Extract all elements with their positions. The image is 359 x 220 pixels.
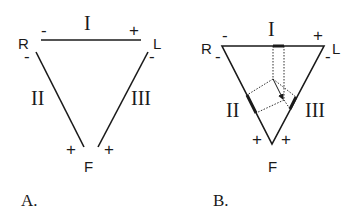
lead-2-label: II xyxy=(31,87,44,109)
triangle-outline xyxy=(222,46,324,144)
lead-3-negative-sign: - xyxy=(149,47,155,66)
lead-3-label: III xyxy=(305,99,325,121)
lead-2-negative-sign: - xyxy=(24,47,30,66)
lead-3-positive-sign: + xyxy=(281,130,291,149)
lead-1-label: I xyxy=(268,18,275,40)
diagram-b-caption: B. xyxy=(213,191,229,210)
lead-2-label: II xyxy=(226,99,239,121)
vertex-f-label: F xyxy=(84,158,93,175)
vertex-l-label: L xyxy=(332,40,340,57)
lead-3-projection-segment xyxy=(290,97,296,109)
lead-3-label: III xyxy=(131,87,151,109)
diagram-a: R L F I II III - + - - + + A. xyxy=(18,12,161,210)
lead-2-positive-sign: + xyxy=(66,140,76,159)
projection-guides xyxy=(247,46,296,113)
vertex-r-label: R xyxy=(201,40,212,57)
lead-3-positive-sign: + xyxy=(104,140,114,159)
diagram-b: R L F I II III - + - - + + B. xyxy=(201,18,340,210)
lead-2-negative-sign: - xyxy=(215,47,221,66)
vertex-f-label: F xyxy=(268,158,277,175)
einthoven-triangle-figure: R L F I II III - + - - + + A. R xyxy=(0,0,359,220)
lead-1-label: I xyxy=(84,12,91,34)
diagram-a-caption: A. xyxy=(21,191,38,210)
lead-2-projection-segment xyxy=(247,95,256,113)
mean-vector-arrow xyxy=(273,79,283,99)
lead-2-positive-sign: + xyxy=(252,130,262,149)
lead-1-negative-sign: - xyxy=(222,26,228,45)
lead-1-negative-sign: - xyxy=(41,21,47,40)
lead-1-positive-sign: + xyxy=(129,21,139,40)
lead-1-positive-sign: + xyxy=(313,26,323,45)
lead-3-negative-sign: - xyxy=(325,47,331,66)
